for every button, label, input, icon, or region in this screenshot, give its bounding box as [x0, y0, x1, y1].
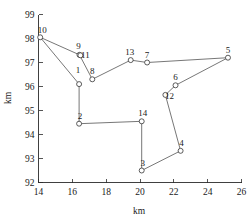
- data-point-label: 11: [81, 50, 90, 60]
- y-tick-label: 96: [25, 82, 35, 92]
- data-point-label: 8: [90, 66, 95, 76]
- data-point-labels: 1234567891011121314: [38, 25, 231, 167]
- y-tick-label: 94: [25, 130, 35, 140]
- data-point-label: 14: [138, 108, 148, 118]
- data-point-marker: [178, 148, 183, 153]
- data-point-marker: [77, 82, 82, 87]
- y-axis-title: km: [3, 91, 13, 104]
- data-point-marker: [225, 55, 230, 60]
- x-tick-label: 22: [169, 187, 179, 197]
- data-point-marker: [128, 58, 133, 63]
- x-tick-label: 16: [68, 187, 78, 197]
- data-point-label: 6: [173, 72, 178, 82]
- data-point-label: 12: [165, 91, 174, 101]
- chart-canvas: 14161820222426 9293949596979899 12345678…: [0, 0, 248, 219]
- data-point-marker: [139, 119, 144, 124]
- y-tick-label: 93: [25, 154, 35, 164]
- data-point-label: 3: [140, 158, 145, 168]
- data-point-label: 13: [125, 47, 135, 57]
- data-point-label: 1: [76, 65, 81, 75]
- data-point-label: 7: [145, 50, 150, 60]
- data-point-marker: [90, 77, 95, 82]
- data-point-label: 10: [38, 25, 48, 35]
- x-tick-label: 14: [34, 187, 44, 197]
- x-axis-ticks: 14161820222426: [34, 179, 247, 198]
- y-tick-label: 98: [25, 34, 35, 44]
- x-axis-title: km: [133, 206, 146, 216]
- y-tick-label: 97: [25, 58, 35, 68]
- data-point-marker: [38, 35, 43, 40]
- data-point-marker: [145, 60, 150, 65]
- x-tick-label: 24: [203, 187, 213, 197]
- route-polyline: [40, 37, 228, 170]
- data-point-label: 5: [226, 45, 231, 55]
- data-point-marker: [77, 121, 82, 126]
- x-tick-label: 20: [135, 187, 145, 197]
- route-polyline-group: [40, 37, 228, 170]
- data-point-label: 2: [78, 111, 83, 121]
- x-tick-label: 18: [101, 187, 111, 197]
- y-tick-label: 92: [25, 178, 35, 188]
- route-chart: 14161820222426 9293949596979899 12345678…: [0, 0, 248, 219]
- data-point-marker: [139, 168, 144, 173]
- y-tick-label: 95: [25, 106, 35, 116]
- data-point-label: 4: [179, 138, 184, 148]
- y-tick-label: 99: [25, 10, 35, 20]
- data-point-marker: [173, 83, 178, 88]
- x-tick-label: 26: [237, 187, 247, 197]
